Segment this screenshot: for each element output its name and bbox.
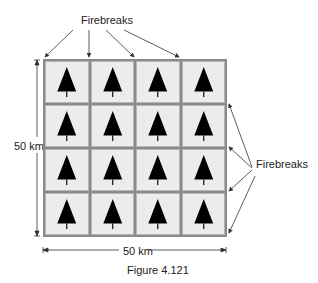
- arrow-icon: [106, 30, 134, 57]
- arrow-icon: [229, 170, 252, 191]
- arrow-icon: [45, 30, 73, 57]
- arrow-icon: [124, 30, 179, 57]
- annotation-arrows: [0, 0, 318, 283]
- arrow-icon: [229, 176, 255, 233]
